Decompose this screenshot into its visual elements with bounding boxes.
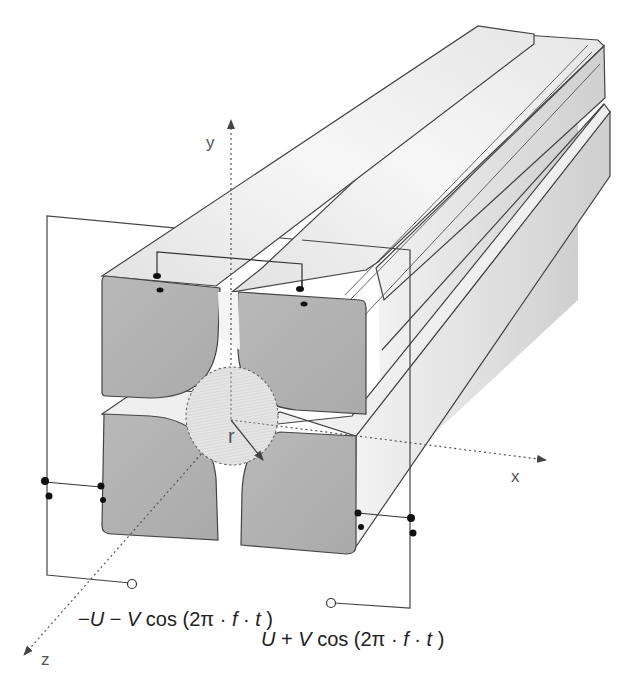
- voltage-negative-formula: −U − V cos (2π · f · t ): [78, 608, 273, 630]
- x-axis-label: x: [511, 467, 520, 486]
- terminal-dot: [41, 477, 49, 485]
- terminal-open-negative: [128, 580, 137, 589]
- quadrupole-diagram: y x z r −U − V cos (2π · f · t ) U + V c…: [0, 0, 644, 694]
- wire-inner-left: [45, 482, 101, 487]
- terminal-dot: [100, 497, 106, 503]
- terminal-dot: [46, 493, 53, 500]
- terminal-open-positive: [327, 599, 336, 608]
- radius-label: r: [228, 425, 235, 447]
- y-axis-label: y: [206, 133, 215, 152]
- z-axis-label: z: [41, 650, 50, 669]
- terminal-dot: [407, 514, 415, 522]
- terminal-dot: [301, 302, 308, 307]
- terminal-dot: [355, 510, 362, 517]
- terminal-dot: [153, 273, 161, 279]
- voltage-positive-formula: U + V cos (2π · f · t ): [261, 628, 444, 650]
- field-region: [186, 367, 278, 465]
- terminal-dot: [98, 483, 105, 490]
- terminal-dot: [410, 530, 417, 537]
- terminal-dot: [358, 524, 364, 530]
- rod-gap: [218, 292, 240, 350]
- terminal-dot: [296, 286, 304, 292]
- terminal-dot: [157, 288, 164, 293]
